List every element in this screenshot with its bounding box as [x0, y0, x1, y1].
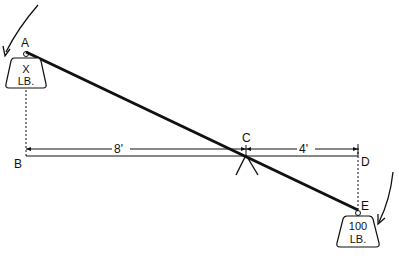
rotation-arrow-right-icon	[378, 172, 393, 224]
lever-diagram: 8' 4' X LB. 100 LB. A B C D E	[0, 0, 399, 256]
weight-left-unit: LB.	[18, 75, 35, 87]
dimension-line	[26, 144, 358, 156]
dimension-right-label: 4'	[299, 142, 308, 156]
point-label-e: E	[361, 199, 369, 213]
point-label-a: A	[21, 36, 29, 50]
weight-right-value: 100	[349, 220, 367, 232]
point-label-b: B	[14, 157, 22, 171]
point-label-c: C	[242, 131, 251, 145]
weight-left-value: X	[22, 63, 30, 75]
weight-right-unit: LB.	[350, 233, 367, 245]
dimension-left-label: 8'	[114, 142, 123, 156]
lever-beam	[26, 52, 358, 210]
point-label-d: D	[361, 155, 370, 169]
